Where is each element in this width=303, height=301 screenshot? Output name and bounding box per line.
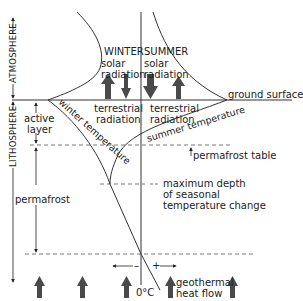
summer-terrestrial-label-2: radiation bbox=[150, 114, 195, 125]
plus-sign: + bbox=[152, 260, 160, 271]
geothermal-arrow-1 bbox=[34, 276, 45, 298]
summer-solar-label-1: solar bbox=[144, 58, 168, 69]
max-depth-label-2: of seasonal bbox=[163, 189, 220, 200]
geothermal-label-1: geothermal bbox=[176, 277, 234, 288]
summer-header: SUMMER bbox=[144, 46, 188, 57]
lithosphere-label: LITHOSPHERE bbox=[8, 106, 18, 167]
summer-terrestrial-label-1: terrestrial bbox=[150, 103, 199, 114]
geothermal-label-2: heat flow bbox=[176, 288, 222, 299]
active-layer-label-2: layer bbox=[27, 124, 52, 135]
winter-header: WINTER bbox=[104, 46, 144, 57]
geothermal-arrow-2 bbox=[77, 276, 88, 298]
permafrost-table-label: permafrost table bbox=[193, 150, 276, 161]
max-depth-label-1: maximum depth bbox=[163, 178, 246, 189]
active-layer-label-1: active bbox=[24, 113, 54, 124]
winter-atmosphere-curve bbox=[48, 12, 102, 100]
winter-solar-label-2: radiation bbox=[101, 69, 146, 80]
geothermal-arrow-4 bbox=[165, 276, 176, 298]
geothermal-arrow-3 bbox=[121, 276, 132, 298]
winter-terrestrial-label-2: radiation bbox=[96, 114, 141, 125]
winter-solar-label-1: solar bbox=[101, 58, 125, 69]
minus-sign: – bbox=[134, 260, 139, 271]
permafrost-label: permafrost bbox=[15, 194, 70, 205]
ground-surface-label: ground surface bbox=[228, 89, 303, 100]
zero-celsius-label: 0°C bbox=[136, 287, 154, 298]
summer-solar-label-2: radiation bbox=[144, 69, 189, 80]
winter-terrestrial-label-1: terrestrial bbox=[94, 103, 143, 114]
atmosphere-label: ATMOSPHERE bbox=[8, 23, 18, 83]
max-depth-label-3: temperature change bbox=[163, 200, 266, 211]
